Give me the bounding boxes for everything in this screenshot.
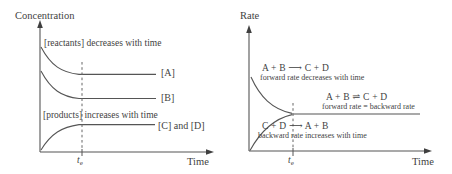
equilibrium-caption: forward rate = backward rate bbox=[322, 103, 415, 112]
time-axis-label-right: Time bbox=[412, 156, 434, 168]
equilibrium-figure: Concentration [reactants] decreases with… bbox=[0, 0, 452, 174]
curve-b bbox=[41, 71, 156, 99]
curve-label-cd: [C] and [D] bbox=[158, 120, 205, 131]
products-annotation: [products] increases with time bbox=[43, 110, 158, 120]
curve-label-a: [A] bbox=[161, 67, 175, 78]
rate-axis-label: Rate bbox=[240, 10, 259, 22]
concentration-plot bbox=[0, 0, 226, 174]
backward-reaction-equation: C + D ⟶ A + B bbox=[262, 121, 329, 131]
equilibrium-equation: A + B ⇌ C + D bbox=[326, 92, 387, 102]
rate-plot bbox=[226, 0, 452, 174]
curve-a bbox=[41, 47, 156, 74]
equilibrium-time-tick-label-left: te bbox=[77, 155, 83, 168]
forward-reaction-equation: A + B ⟶ C + D bbox=[262, 63, 329, 73]
reactants-annotation: [reactants] decreases with time bbox=[44, 38, 161, 48]
curve-cd bbox=[41, 125, 155, 150]
time-axis-label-left: Time bbox=[187, 156, 209, 168]
concentration-axis-label: Concentration bbox=[15, 10, 74, 22]
curve-label-b: [B] bbox=[161, 92, 174, 103]
x-axis-arrow-icon bbox=[206, 149, 214, 155]
x-axis-arrow-icon bbox=[424, 148, 432, 154]
forward-reaction-caption: forward rate decreases with time bbox=[260, 74, 364, 83]
y-axis-arrow-icon bbox=[246, 25, 252, 33]
backward-reaction-caption: backward rate increases with time bbox=[258, 132, 367, 141]
equilibrium-time-tick-label-right: te bbox=[288, 155, 294, 168]
